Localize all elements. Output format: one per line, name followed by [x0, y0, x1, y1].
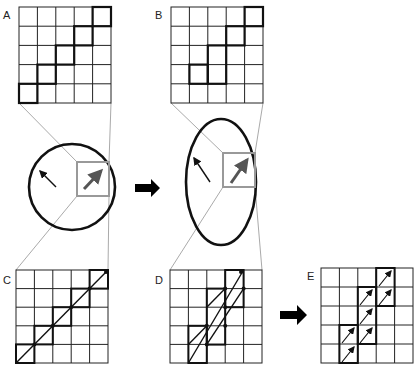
panel-d-label: D [155, 274, 163, 286]
panel-c-label: C [3, 274, 11, 286]
panel-b-label: B [155, 9, 162, 21]
big-vector-icon [84, 171, 101, 189]
small-vector-icon [194, 158, 210, 182]
panel-e-vectors [342, 271, 391, 362]
arrow-right-icon [280, 305, 307, 325]
panel-c-line [16, 270, 108, 363]
figure-canvas: A B [0, 0, 417, 371]
arrow-right-icon [135, 179, 160, 197]
panel-b-grid [171, 7, 263, 103]
panel-d-lines [188, 270, 243, 363]
small-vector-icon [40, 171, 56, 187]
panel-e-label: E [307, 270, 314, 282]
panel-a-label: A [3, 9, 11, 21]
panel-a-grid [19, 7, 111, 103]
ellipse-shape [186, 119, 256, 245]
panel-a-highlight [19, 7, 111, 103]
big-vector-icon [231, 160, 247, 183]
